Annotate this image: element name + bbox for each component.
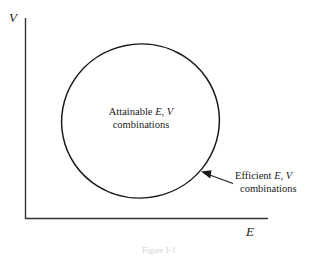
efficient-pointer-arrowhead [201, 170, 212, 178]
y-axis-label: V [9, 11, 17, 24]
attainable-label-symbol-v: V [167, 106, 173, 117]
attainable-combinations-label: Attainable E, V combinations [95, 105, 187, 131]
attainable-label-prefix: Attainable [109, 106, 155, 117]
efficient-label-line-1: Efficient E, V [235, 169, 297, 182]
attainable-label-line-1: Attainable E, V [95, 105, 187, 118]
efficient-pointer-line [207, 174, 233, 184]
attainable-label-line-2: combinations [95, 118, 187, 131]
efficient-label-line-2: combinations [235, 182, 297, 195]
x-axis-label: E [246, 225, 254, 238]
figure-caption: Figure 1-1 [0, 246, 318, 256]
efficient-combinations-label: Efficient E, V combinations [235, 169, 297, 195]
efficient-label-symbol-v: V [286, 170, 292, 181]
efficient-label-prefix: Efficient [235, 170, 274, 181]
figure-container: V E Attainable E, V combinations Efficie… [0, 0, 318, 258]
